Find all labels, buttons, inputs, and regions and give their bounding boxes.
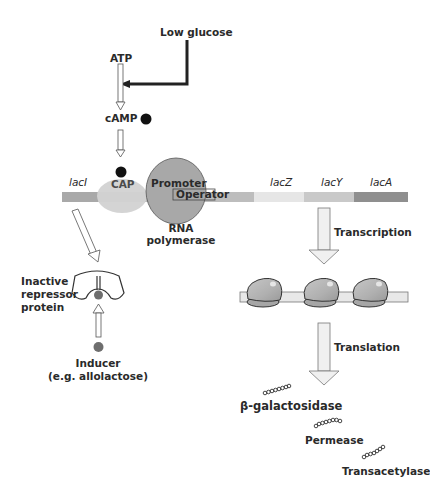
- transcription-label: Transcription: [334, 226, 412, 239]
- laci-to-repressor-arrow: [72, 209, 100, 262]
- repressor-protein-shape: [72, 271, 124, 300]
- inducer-arrow: [93, 304, 104, 337]
- atp-label: ATP: [110, 52, 132, 65]
- repressor-label-line1: Inactive: [21, 275, 68, 288]
- gene-laci-segment: [62, 192, 98, 202]
- gene-lacz-segment: [254, 192, 304, 202]
- gene-label-lacz: lacZ: [270, 176, 292, 188]
- gene-label-lacy: lacY: [321, 176, 343, 188]
- operator-label: Operator: [176, 188, 229, 201]
- camp-label: cAMP: [105, 112, 138, 125]
- polymerase-label: polymerase: [146, 234, 216, 247]
- gene-lacy-segment: [304, 192, 354, 202]
- permease-label: Permease: [305, 434, 364, 447]
- camp-dot-icon: [141, 114, 152, 125]
- gene-label-laci: lacI: [69, 176, 87, 188]
- gene-laca-segment: [354, 192, 408, 202]
- beta-galactosidase-label: β-galactosidase: [240, 400, 342, 413]
- inducer-example-label: (e.g. allolactose): [38, 370, 158, 383]
- atp-to-camp-arrow: [116, 64, 125, 110]
- ribosome-1: [247, 278, 282, 307]
- translation-label: Translation: [334, 341, 400, 354]
- inducer-label: Inducer: [58, 357, 138, 370]
- translation-arrow: [309, 323, 339, 385]
- gene-label-laca: lacA: [370, 176, 392, 188]
- repressor-label-line2: repressor: [21, 288, 78, 301]
- transacetylase-label: Transacetylase: [342, 465, 430, 478]
- cap-bound-camp-icon: [116, 167, 127, 178]
- low-glucose-label: Low glucose: [160, 26, 233, 39]
- camp-to-cap-arrow: [116, 130, 125, 157]
- permease-chain-icon: [314, 418, 342, 428]
- cap-label: CAP: [111, 178, 135, 191]
- repressor-label-line3: protein: [21, 301, 64, 314]
- ribosome-3: [353, 278, 388, 307]
- inducer-dot-icon: [94, 342, 104, 352]
- beta-galactosidase-chain-icon: [263, 384, 291, 395]
- ribosome-2: [304, 278, 339, 307]
- mrna-ribosomes: [240, 278, 408, 307]
- transacetylase-chain-icon: [362, 445, 385, 459]
